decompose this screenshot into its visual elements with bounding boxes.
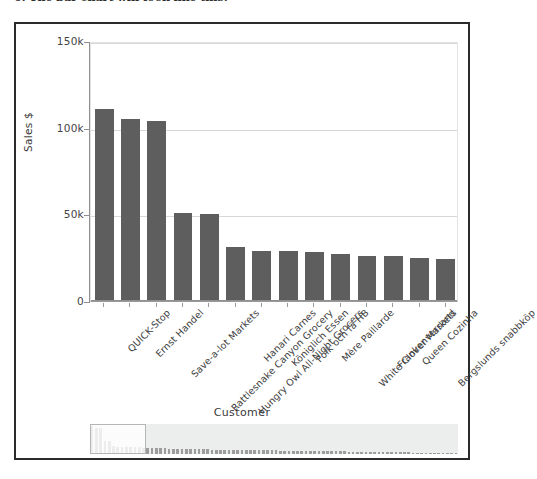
navigator-bar bbox=[172, 449, 175, 454]
bar[interactable] bbox=[252, 251, 271, 301]
bar[interactable] bbox=[147, 121, 166, 301]
chart-scroll-navigator[interactable] bbox=[90, 424, 458, 454]
y-axis-tick-group: 050k100k150k bbox=[16, 24, 84, 462]
navigator-bar bbox=[318, 451, 321, 454]
navigator-bar bbox=[437, 453, 440, 454]
navigator-bar bbox=[296, 451, 299, 454]
navigator-bar bbox=[219, 450, 222, 454]
bar[interactable] bbox=[279, 251, 298, 301]
navigator-bar bbox=[155, 448, 158, 454]
navigator-window-handle[interactable] bbox=[90, 424, 146, 454]
bar[interactable] bbox=[95, 109, 114, 301]
navigator-bar bbox=[168, 449, 171, 454]
bar[interactable] bbox=[384, 256, 403, 301]
navigator-bar bbox=[202, 449, 205, 454]
navigator-bar bbox=[412, 453, 415, 455]
navigator-bar bbox=[232, 450, 235, 454]
navigator-bar bbox=[245, 450, 248, 454]
navigator-bar bbox=[189, 449, 192, 454]
x-axis-label-group: QUICK-StopErnst HandelSave-a-lot Markets… bbox=[90, 307, 470, 412]
navigator-bar bbox=[279, 451, 282, 454]
navigator-bar bbox=[386, 452, 389, 454]
navigator-bar bbox=[446, 453, 449, 454]
navigator-bar bbox=[403, 452, 406, 454]
navigator-bar bbox=[378, 452, 381, 454]
navigator-bar bbox=[300, 451, 303, 454]
bar[interactable] bbox=[410, 258, 429, 301]
navigator-bar bbox=[146, 448, 149, 454]
navigator-bar bbox=[164, 448, 167, 454]
document-caption-strip: 6. The bar chart will look like this: bbox=[0, 0, 497, 13]
bar[interactable] bbox=[121, 119, 140, 301]
y-tick-label-50k: 50k bbox=[22, 208, 84, 220]
navigator-bar bbox=[313, 451, 316, 454]
navigator-bar bbox=[450, 453, 453, 454]
bar-chart-panel: Sales $ 050k100k150k QUICK-StopErnst Han… bbox=[14, 22, 470, 460]
navigator-bar bbox=[369, 452, 372, 454]
navigator-bar bbox=[442, 453, 445, 454]
navigator-bar bbox=[373, 452, 376, 454]
x-axis-baseline bbox=[91, 300, 457, 301]
navigator-bar bbox=[176, 449, 179, 454]
bar[interactable] bbox=[358, 256, 377, 301]
navigator-bar bbox=[275, 450, 278, 454]
y-tick-label-150k: 150k bbox=[22, 35, 84, 47]
navigator-bar bbox=[343, 451, 346, 454]
navigator-bar bbox=[206, 449, 209, 454]
navigator-bar bbox=[365, 452, 368, 454]
navigator-bar bbox=[253, 450, 256, 454]
navigator-bar bbox=[420, 453, 423, 454]
bar[interactable] bbox=[331, 254, 350, 301]
navigator-bar bbox=[433, 453, 436, 454]
navigator-bar bbox=[198, 449, 201, 454]
navigator-bar bbox=[249, 450, 252, 454]
bar[interactable] bbox=[436, 259, 455, 301]
navigator-bar bbox=[271, 450, 274, 454]
navigator-bar bbox=[348, 452, 351, 454]
navigator-bar bbox=[407, 452, 410, 454]
navigator-bar bbox=[425, 453, 428, 454]
navigator-bar bbox=[283, 451, 286, 454]
navigator-bar bbox=[339, 451, 342, 454]
navigator-bar bbox=[211, 450, 214, 454]
navigator-bar bbox=[194, 449, 197, 454]
navigator-bar bbox=[399, 452, 402, 454]
navigator-bar bbox=[262, 450, 265, 454]
navigator-bar bbox=[288, 451, 291, 454]
navigator-bar bbox=[395, 452, 398, 454]
caption-text: 6. The bar chart will look like this: bbox=[14, 0, 228, 4]
navigator-bar bbox=[258, 450, 261, 454]
navigator-bar bbox=[309, 451, 312, 454]
plot-area bbox=[90, 42, 458, 302]
bar[interactable] bbox=[305, 252, 324, 301]
navigator-bar bbox=[305, 451, 308, 454]
navigator-bar bbox=[429, 453, 432, 454]
navigator-bar bbox=[236, 450, 239, 454]
x-axis-title: Customer bbox=[16, 406, 468, 419]
navigator-bar bbox=[330, 451, 333, 454]
bar[interactable] bbox=[200, 214, 219, 301]
navigator-bar bbox=[326, 451, 329, 454]
navigator-bar bbox=[181, 449, 184, 454]
bar[interactable] bbox=[174, 213, 193, 301]
navigator-bar bbox=[352, 452, 355, 454]
navigator-bar bbox=[416, 453, 419, 454]
navigator-bar bbox=[390, 452, 393, 454]
navigator-bar bbox=[151, 448, 154, 454]
bar[interactable] bbox=[226, 247, 245, 301]
navigator-bar bbox=[223, 450, 226, 454]
navigator-bar bbox=[241, 450, 244, 454]
navigator-bar bbox=[322, 451, 325, 454]
navigator-bar bbox=[159, 448, 162, 454]
y-tick-label-0: 0 bbox=[22, 295, 84, 307]
navigator-bar bbox=[360, 452, 363, 454]
navigator-bar bbox=[455, 453, 458, 454]
navigator-bar bbox=[228, 450, 231, 454]
y-tick-label-100k: 100k bbox=[22, 122, 84, 134]
navigator-bar bbox=[335, 451, 338, 454]
navigator-bar bbox=[292, 451, 295, 454]
navigator-bar bbox=[356, 452, 359, 454]
navigator-bar bbox=[215, 450, 218, 454]
navigator-bar bbox=[185, 449, 188, 454]
bars-layer bbox=[91, 43, 457, 301]
